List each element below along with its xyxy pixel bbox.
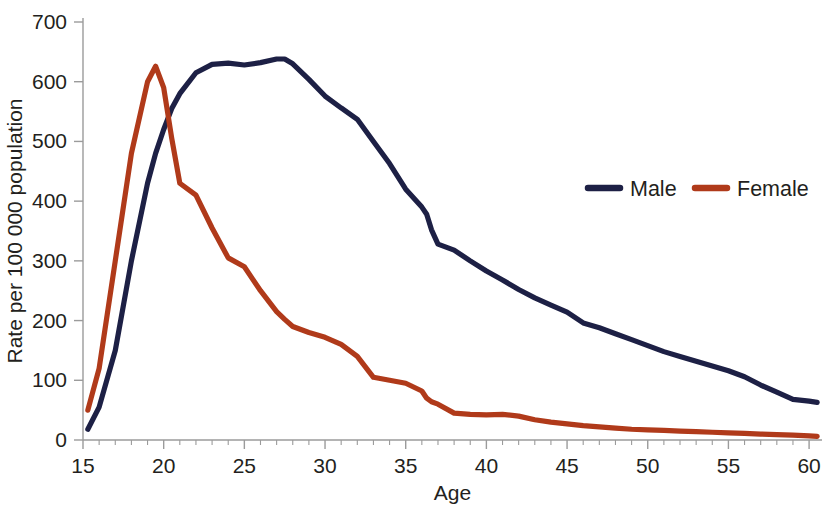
- y-tick-label: 700: [32, 10, 67, 33]
- x-tick-label: 25: [233, 454, 256, 477]
- y-tick-label: 400: [32, 189, 67, 212]
- line-chart-canvas: 0100200300400500600700 15202530354045505…: [0, 0, 825, 509]
- y-tick-label: 600: [32, 70, 67, 93]
- x-tick-label: 15: [71, 454, 94, 477]
- data-series-group: [88, 59, 817, 436]
- x-tick-label: 40: [475, 454, 498, 477]
- y-tick-label: 300: [32, 249, 67, 272]
- x-tick-label: 55: [717, 454, 740, 477]
- chart-legend: MaleFemale: [588, 177, 809, 201]
- y-tick-label: 500: [32, 129, 67, 152]
- series-line-male: [88, 59, 817, 429]
- legend-label-female: Female: [737, 177, 809, 201]
- x-tick-labels-group: 15202530354045505560: [71, 454, 820, 477]
- x-tick-label: 60: [797, 454, 820, 477]
- y-axis-label: Rate per 100 000 population: [3, 98, 26, 363]
- y-tick-label: 100: [32, 368, 67, 391]
- x-tick-label: 20: [152, 454, 175, 477]
- x-tick-label: 50: [636, 454, 659, 477]
- x-axis-label: Age: [434, 481, 471, 504]
- chart-figure: 0100200300400500600700 15202530354045505…: [0, 0, 825, 509]
- legend-item-male: Male: [588, 177, 677, 201]
- x-tick-label: 45: [555, 454, 578, 477]
- y-tick-label: 0: [55, 428, 67, 451]
- y-tick-label: 200: [32, 309, 67, 332]
- y-tick-labels-group: 0100200300400500600700: [32, 10, 67, 451]
- legend-item-female: Female: [695, 177, 809, 201]
- x-tick-label: 35: [394, 454, 417, 477]
- x-tick-label: 30: [313, 454, 336, 477]
- legend-label-male: Male: [630, 177, 677, 201]
